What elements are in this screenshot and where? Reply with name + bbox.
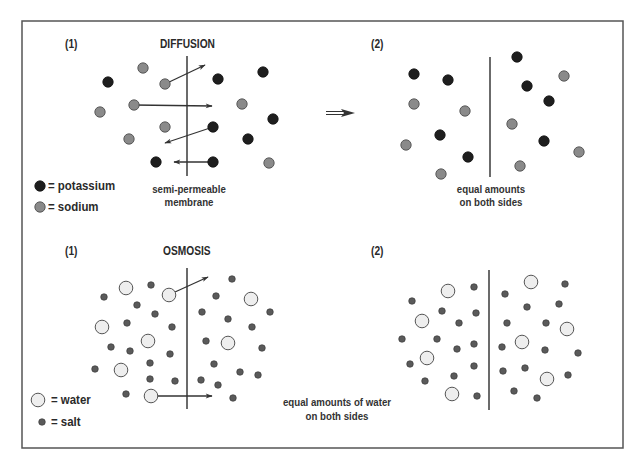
sodium-particle-icon bbox=[460, 106, 470, 116]
salt-particle-icon bbox=[92, 366, 99, 373]
water-particle-icon bbox=[95, 320, 109, 334]
water-particle-icon bbox=[420, 351, 434, 365]
potassium-particle-icon bbox=[213, 74, 223, 84]
salt-particle-icon bbox=[522, 365, 529, 372]
water-particle-icon bbox=[244, 292, 258, 306]
salt-particle-icon bbox=[454, 346, 461, 353]
salt-particle-icon bbox=[172, 378, 179, 385]
potassium-particle-icon bbox=[435, 130, 445, 140]
water-particle-icon bbox=[31, 393, 45, 407]
sodium-particle-icon bbox=[160, 79, 170, 89]
potassium-particle-icon bbox=[409, 69, 419, 79]
potassium-particle-icon bbox=[208, 122, 218, 132]
salt-particle-icon bbox=[108, 344, 115, 351]
water-particle-icon bbox=[540, 372, 554, 386]
water-particle-icon bbox=[114, 363, 128, 377]
salt-particle-icon bbox=[199, 309, 206, 316]
sodium-particle-icon bbox=[237, 99, 247, 109]
salt-particle-icon bbox=[249, 324, 256, 331]
salt-particle-icon bbox=[101, 294, 108, 301]
salt-particle-icon bbox=[225, 316, 232, 323]
salt-particle-icon bbox=[152, 311, 159, 318]
potassium-particle-icon bbox=[103, 77, 113, 87]
salt-particle-icon bbox=[556, 301, 563, 308]
water-particle-icon bbox=[144, 389, 158, 403]
potassium-particle-icon bbox=[443, 75, 453, 85]
water-particle-icon bbox=[560, 322, 574, 336]
water-particle-icon bbox=[445, 387, 459, 401]
potassium-particle-icon bbox=[522, 81, 532, 91]
legend-water-label: = water bbox=[51, 393, 91, 406]
legend-sodium-label: = sodium bbox=[48, 200, 99, 213]
salt-particle-icon bbox=[198, 377, 205, 384]
salt-particle-icon bbox=[407, 361, 414, 368]
salt-particle-icon bbox=[471, 341, 478, 348]
water-particle-icon bbox=[441, 284, 455, 298]
diffusion-panel-1-label: (1) bbox=[65, 38, 77, 50]
potassium-particle-icon bbox=[243, 134, 253, 144]
salt-particle-icon bbox=[500, 368, 507, 375]
legend-potassium-label: = potassium bbox=[48, 179, 115, 192]
salt-particle-icon bbox=[134, 302, 141, 309]
salt-particle-icon bbox=[123, 391, 130, 398]
salt-particle-icon bbox=[511, 388, 518, 395]
diffusion-result-caption-line2: on both sides bbox=[460, 197, 523, 208]
sodium-particle-icon bbox=[138, 63, 148, 73]
salt-particle-icon bbox=[534, 395, 541, 402]
potassium-particle-icon bbox=[512, 52, 522, 62]
salt-particle-icon bbox=[422, 378, 429, 385]
salt-particle-icon bbox=[237, 369, 244, 376]
salt-particle-icon bbox=[502, 291, 509, 298]
potassium-particle-icon bbox=[258, 67, 268, 77]
salt-particle-icon bbox=[39, 419, 46, 426]
salt-particle-icon bbox=[148, 282, 155, 289]
salt-particle-icon bbox=[409, 298, 416, 305]
diffusion-result-caption-line1: equal amounts bbox=[457, 184, 525, 195]
water-particle-icon bbox=[221, 336, 235, 350]
salt-particle-icon bbox=[167, 351, 174, 358]
sodium-particle-icon bbox=[264, 158, 274, 168]
membrane-caption-line1: semi-permeable bbox=[152, 184, 226, 195]
sodium-particle-icon bbox=[160, 122, 170, 132]
diffusion-title: DIFFUSION bbox=[160, 38, 215, 50]
sodium-particle-icon bbox=[436, 169, 446, 179]
salt-particle-icon bbox=[259, 345, 266, 352]
salt-particle-icon bbox=[255, 372, 262, 379]
osmosis-panel-2-label: (2) bbox=[371, 245, 383, 257]
salt-particle-icon bbox=[169, 324, 176, 331]
potassium-particle-icon bbox=[544, 96, 554, 106]
salt-particle-icon bbox=[267, 309, 274, 316]
osmosis-panel-1-label: (1) bbox=[65, 245, 77, 257]
salt-particle-icon bbox=[124, 320, 131, 327]
salt-particle-icon bbox=[127, 348, 134, 355]
salt-particle-icon bbox=[504, 320, 511, 327]
water-particle-icon bbox=[524, 275, 538, 289]
water-particle-icon bbox=[162, 288, 176, 302]
salt-particle-icon bbox=[474, 393, 481, 400]
sodium-particle-icon bbox=[515, 161, 525, 171]
salt-particle-icon bbox=[230, 395, 237, 402]
salt-particle-icon bbox=[542, 347, 549, 354]
salt-particle-icon bbox=[565, 372, 572, 379]
diffusion-panel-2-label: (2) bbox=[371, 38, 383, 50]
sodium-particle-icon bbox=[129, 100, 139, 110]
potassium-particle-icon bbox=[35, 181, 45, 191]
salt-particle-icon bbox=[439, 308, 446, 315]
osmosis-result-caption-line2: on both sides bbox=[306, 411, 369, 422]
sodium-particle-icon bbox=[124, 134, 134, 144]
salt-particle-icon bbox=[211, 361, 218, 368]
water-particle-icon bbox=[515, 335, 529, 349]
salt-particle-icon bbox=[499, 344, 506, 351]
water-particle-icon bbox=[119, 281, 133, 295]
membrane-caption-line2: membrane bbox=[165, 197, 214, 208]
potassium-particle-icon bbox=[151, 157, 161, 167]
salt-particle-icon bbox=[229, 276, 236, 283]
salt-particle-icon bbox=[147, 360, 154, 367]
sodium-particle-icon bbox=[409, 99, 419, 109]
sodium-particle-icon bbox=[95, 107, 105, 117]
salt-particle-icon bbox=[451, 373, 458, 380]
sodium-particle-icon bbox=[35, 202, 45, 212]
salt-particle-icon bbox=[473, 310, 480, 317]
sodium-particle-icon bbox=[574, 147, 584, 157]
salt-particle-icon bbox=[203, 338, 210, 345]
